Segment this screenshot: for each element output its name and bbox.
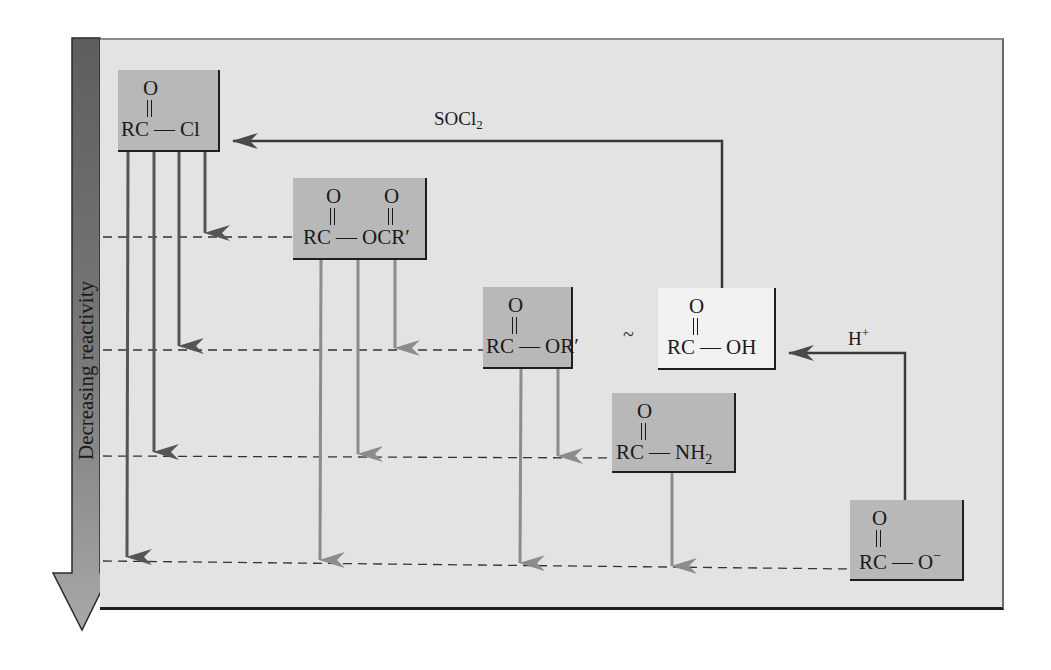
compound-anhydride: O O RC—OCR′	[293, 178, 427, 260]
compound-carboxylate: O RC—O−	[850, 500, 964, 581]
arrow-carboxylate-to-acid	[789, 353, 905, 500]
level-lines	[103, 237, 852, 569]
double-bond-icon	[388, 208, 393, 225]
reagent-socl2: SOCl2	[434, 109, 483, 131]
double-bond-icon	[330, 208, 335, 225]
carbonyl-oxygen: O	[143, 78, 158, 99]
compound-carboxylic-acid: O RC—OH	[658, 288, 776, 370]
formula: RC—OCR′	[303, 227, 410, 248]
arrow-acyl-chloride-to-carboxylate	[127, 151, 128, 557]
arrow-anhydride-to-carboxylate	[320, 259, 321, 560]
double-bond-icon	[693, 318, 698, 335]
carbonyl-oxygen: O	[508, 295, 523, 316]
compound-amide: O RC—NH2	[612, 393, 736, 473]
carbonyl-oxygen: O	[326, 186, 341, 207]
formula: RC—Cl	[121, 119, 200, 140]
double-bond-icon	[147, 100, 152, 117]
carbonyl-oxygen: O	[689, 296, 704, 317]
carbonyl-oxygen: O	[637, 401, 652, 422]
level-line-amide	[103, 456, 616, 458]
equivalence-tilde: ~	[623, 323, 634, 346]
level-line-carboxylate	[103, 561, 852, 569]
formula: RC—O−	[859, 549, 941, 573]
double-bond-icon	[641, 423, 646, 440]
arrow-ester-to-carboxylate	[520, 368, 521, 563]
compound-acyl-chloride: O RC—Cl	[118, 70, 220, 152]
carbonyl-oxygen-2: O	[384, 186, 399, 207]
formula: RC—OR′	[486, 336, 579, 357]
formula: RC—OH	[667, 337, 756, 358]
reagent-h-plus: H+	[848, 326, 869, 348]
reactivity-diagram: Decreasing reactivity	[0, 0, 1051, 670]
compound-ester: O RC—OR′	[483, 287, 573, 369]
formula: RC—NH2	[616, 442, 712, 467]
double-bond-icon	[876, 530, 881, 547]
carbonyl-oxygen: O	[872, 508, 887, 529]
double-bond-icon	[512, 317, 517, 334]
